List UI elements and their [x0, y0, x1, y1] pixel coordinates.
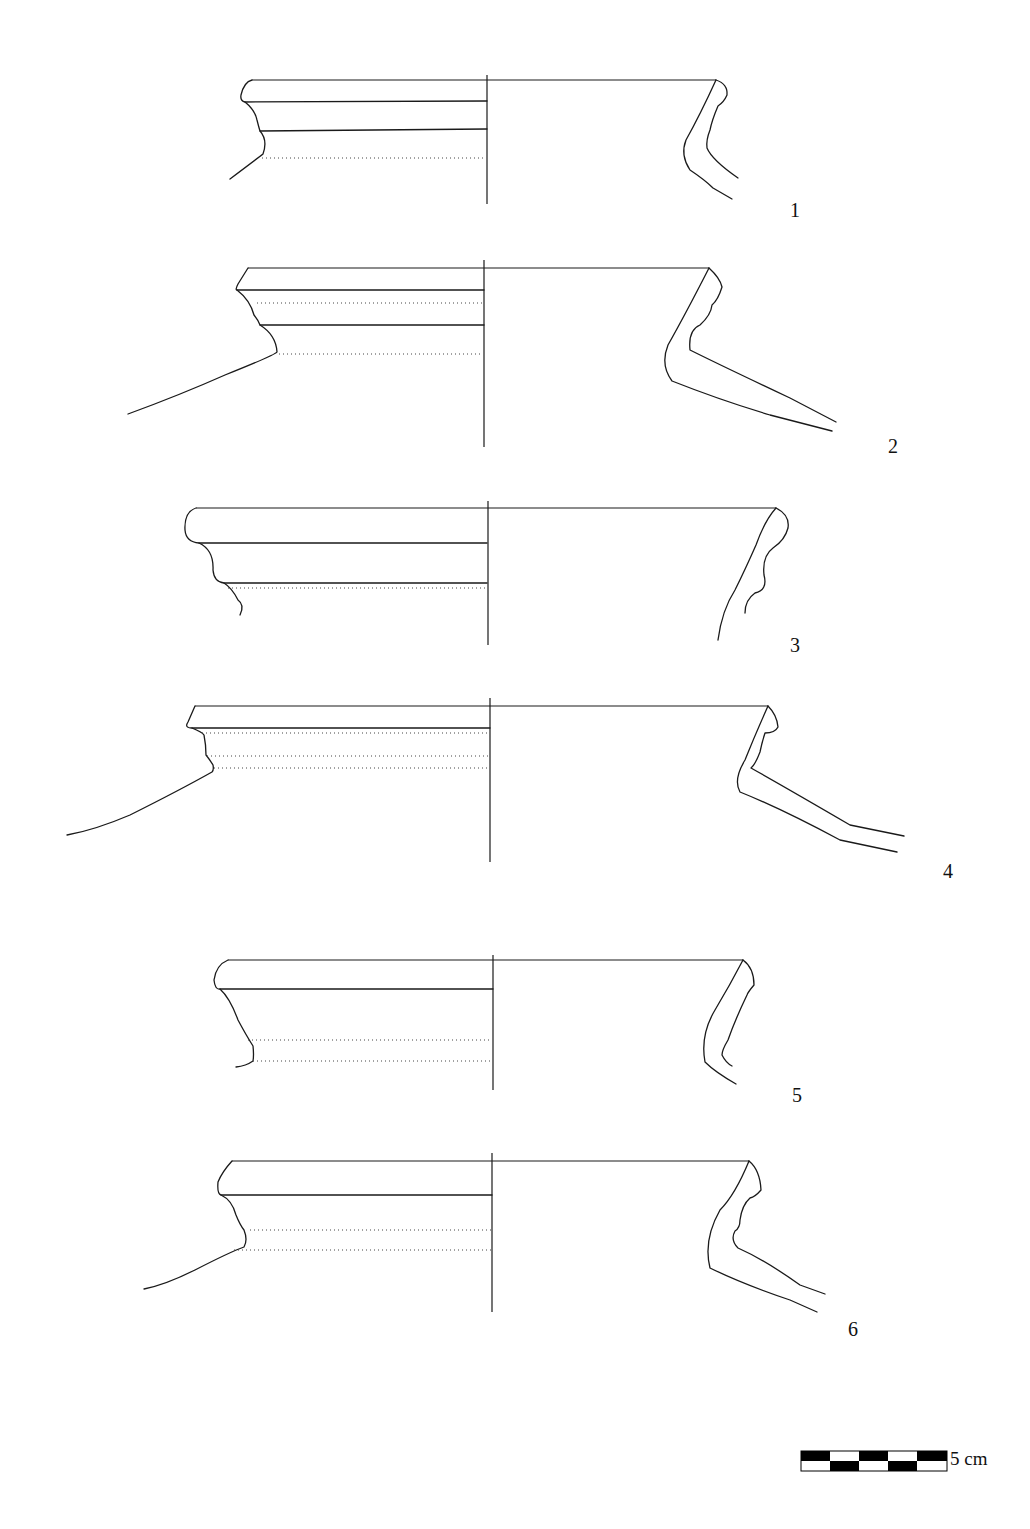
figure-number-6: 6 [848, 1319, 858, 1339]
figure-number-3: 3 [790, 635, 800, 655]
figure-number-2: 2 [888, 436, 898, 456]
vessel-profile-4 [67, 698, 904, 862]
figure-number-4: 4 [943, 861, 953, 881]
vessel-profile-3 [185, 501, 788, 645]
vessel-profile-1 [230, 75, 738, 204]
figure-number-1: 1 [790, 200, 800, 220]
scale-bar [801, 1451, 947, 1471]
vessel-profile-5 [214, 955, 754, 1090]
vessel-profile-2 [128, 260, 836, 447]
figure-number-5: 5 [792, 1085, 802, 1105]
pottery-plate [0, 0, 1030, 1529]
vessel-profile-6 [144, 1153, 825, 1312]
scale-bar-label: 5 cm [950, 1449, 987, 1468]
